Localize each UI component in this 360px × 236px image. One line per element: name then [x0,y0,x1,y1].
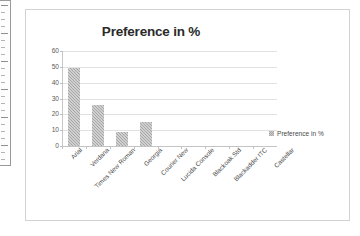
legend-swatch-icon [269,131,274,136]
ruler-tick [1,5,8,6]
x-axis-category-label: Times New Roman [83,147,137,201]
y-axis-tick-label: 20 [39,111,59,118]
bar[interactable] [140,122,152,146]
y-axis-labels: 6050403020100 [39,51,59,146]
chart-title: Preference in % [26,24,276,39]
y-axis-tick-label: 0 [39,143,59,150]
ruler-tick [1,54,5,55]
bar-slot [205,51,229,146]
x-axis-labels: ArialVerdanaTimes New RomanGeorgiaCourie… [62,147,300,217]
ruler-tick [1,68,5,69]
bar-slot [229,51,253,146]
y-axis-tick-label: 60 [39,48,59,55]
bar-slot [181,51,205,146]
ruler-tick [1,12,5,13]
bar[interactable] [116,132,128,146]
ruler-tick [1,89,8,90]
x-axis-category-label: Arial [30,147,84,201]
y-axis-tick-label: 10 [39,127,59,134]
bar-series [62,51,277,146]
y-axis-tick-label: 40 [39,79,59,86]
ruler-tick [1,19,5,20]
ruler-tick [1,124,5,125]
x-axis-category-label: Georgia [109,147,163,201]
y-axis-tick-label: 50 [39,64,59,71]
ruler-tick [1,26,5,27]
ruler-tick [1,138,5,139]
bar-slot [86,51,110,146]
bar[interactable] [68,68,80,146]
ruler-tick [1,131,5,132]
chart-frame[interactable]: Preference in % 6050403020100 ArialVerda… [25,9,350,221]
x-axis-category-label: Blackadder ITC [215,147,269,201]
bar-slot [134,51,158,146]
y-axis-tick-label: 30 [39,95,59,102]
chart-legend: Preference in % [269,130,324,137]
ruler-tick [1,110,5,111]
ruler-tick [1,103,5,104]
legend-label: Preference in % [277,130,324,137]
bar-slot [62,51,86,146]
x-axis-category-label: Castellar [241,147,295,201]
ruler-tick [1,47,5,48]
ruler-tick [1,96,5,97]
ruler-tick [1,117,8,118]
bar-slot [158,51,182,146]
ruler-tick [1,33,8,34]
ruler-tick [1,61,8,62]
ruler-tick [1,82,5,83]
x-axis-category-label: Lucida Console [162,147,216,201]
ruler-tick [1,75,5,76]
ruler-tick [1,159,5,160]
bar-slot [110,51,134,146]
plot-area: 6050403020100 [39,51,277,146]
left-ruler-strip[interactable] [0,0,11,166]
bar[interactable] [92,105,104,146]
ruler-tick [1,40,5,41]
ruler-tick [1,152,5,153]
ruler-tick [1,145,8,146]
